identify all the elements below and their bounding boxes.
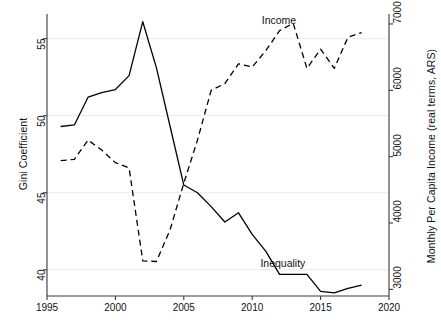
left-axis-title: Gini Coefficient [17, 84, 29, 224]
x-tick-label: 2015 [307, 302, 335, 313]
right-tick-label: 3000 [392, 255, 403, 289]
axis-lines [47, 14, 389, 296]
left-tick-label: 40 [36, 269, 47, 297]
right-axis-title: Monthly Per Capita Income (real terms, A… [425, 41, 437, 271]
x-tick-label: 2020 [375, 302, 403, 313]
x-tick-label: 2005 [170, 302, 198, 313]
series-line-inequality [61, 22, 362, 293]
right-tick-label: 7000 [392, 0, 403, 23]
right-tick-label: 6000 [392, 56, 403, 90]
series-annotation-income: Income [262, 14, 296, 26]
x-tick-label: 2000 [101, 302, 129, 313]
left-tick-label: 55 [36, 38, 47, 66]
right-tick-label: 4000 [392, 189, 403, 223]
chart-figure: Gini Coefficient Monthly Per Capita Inco… [0, 0, 441, 329]
series-annotation-inequality: Inequality [260, 257, 305, 269]
left-tick-label: 45 [36, 192, 47, 220]
series-line-income [61, 23, 362, 261]
data-series-group [61, 22, 362, 293]
right-tick-label: 5000 [392, 122, 403, 156]
left-tick-label: 50 [36, 115, 47, 143]
chart-plot-area [0, 0, 441, 329]
x-tick-label: 2010 [238, 302, 266, 313]
x-tick-label: 1995 [33, 302, 61, 313]
tick-marks [43, 24, 393, 300]
gridlines [47, 39, 389, 270]
